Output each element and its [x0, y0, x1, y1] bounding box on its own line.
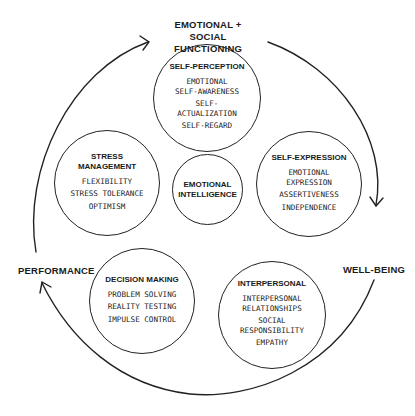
- label-well-being: WELL-BEING: [336, 264, 412, 276]
- composite-title: SELF-PERCEPTION: [169, 62, 244, 72]
- subscale-interpersonal-relationships: INTERPERSONAL RELATIONSHIPS: [242, 294, 301, 313]
- composite-title: SELF-EXPRESSION: [271, 153, 346, 163]
- emotional-intelligence-diagram: EMOTIONAL + SOCIAL FUNCTIONING WELL-BEIN…: [0, 0, 415, 416]
- composite-self-perception: SELF-PERCEPTION EMOTIONAL SELF-AWARENESS…: [153, 44, 261, 152]
- composite-decision-making: DECISION MAKING PROBLEM SOLVING REALITY …: [89, 248, 195, 354]
- subscale-assertiveness: ASSERTIVENESS: [279, 190, 338, 200]
- subscale-emotional-self-awareness: EMOTIONAL SELF-AWARENESS: [175, 77, 239, 96]
- composite-title: STRESS MANAGEMENT: [78, 152, 136, 172]
- composite-interpersonal: INTERPERSONAL INTERPERSONAL RELATIONSHIP…: [218, 261, 326, 369]
- composite-title: DECISION MAKING: [105, 275, 178, 285]
- subscale-reality-testing: REALITY TESTING: [108, 302, 177, 312]
- subscale-optimism: OPTIMISM: [89, 202, 126, 212]
- subscale-self-actualization: SELF- ACTUALIZATION: [177, 99, 236, 118]
- label-performance: PERFORMANCE: [18, 265, 94, 277]
- center-emotional-intelligence: EMOTIONAL INTELLIGENCE: [172, 154, 243, 225]
- subscale-flexibility: FLEXIBILITY: [82, 177, 132, 187]
- subscale-independence: INDEPENDENCE: [282, 203, 337, 213]
- subscale-emotional-expression: EMOTIONAL EXPRESSION: [286, 168, 332, 187]
- subscale-problem-solving: PROBLEM SOLVING: [108, 290, 177, 300]
- center-title: EMOTIONAL INTELLIGENCE: [178, 180, 237, 200]
- subscale-social-responsibility: SOCIAL RESPONSIBILITY: [240, 316, 304, 335]
- subscale-impulse-control: IMPULSE CONTROL: [108, 315, 177, 325]
- subscale-empathy: EMPATHY: [256, 338, 288, 348]
- composite-stress-management: STRESS MANAGEMENT FLEXIBILITY STRESS TOL…: [54, 130, 160, 236]
- subscale-self-regard: SELF-REGARD: [182, 121, 232, 131]
- composite-title: INTERPERSONAL: [238, 279, 306, 289]
- composite-self-expression: SELF-EXPRESSION EMOTIONAL EXPRESSION ASS…: [256, 131, 362, 237]
- subscale-stress-tolerance: STRESS TOLERANCE: [70, 189, 143, 199]
